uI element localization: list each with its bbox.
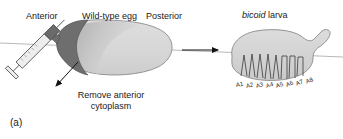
caption-line-2: cytoplasm xyxy=(91,101,132,111)
syringe-needle xyxy=(57,20,65,28)
wild-type-egg xyxy=(44,20,172,75)
panel-label: (a) xyxy=(10,117,22,128)
label-bicoid-larva: bicoid larva xyxy=(242,10,288,20)
syringe-plunger-rod xyxy=(13,65,19,71)
segment-label-a1: A1 xyxy=(235,81,243,88)
removal-arrow xyxy=(56,62,78,86)
syringe-barrel xyxy=(16,34,51,69)
figure-panel-a: Anterior Wild-type egg Posterior bicoid … xyxy=(0,0,343,139)
label-wild-type-egg: Wild-type egg xyxy=(82,11,137,21)
label-anterior: Anterior xyxy=(26,11,58,21)
bicoid-larva xyxy=(232,30,330,81)
label-larva-word: larva xyxy=(268,10,288,20)
caption-remove-anterior-cytoplasm: Remove anterior cytoplasm xyxy=(57,90,165,113)
label-bicoid-gene-name: bicoid xyxy=(242,10,266,20)
caption-line-1: Remove anterior xyxy=(78,90,145,100)
label-posterior: Posterior xyxy=(146,11,182,21)
